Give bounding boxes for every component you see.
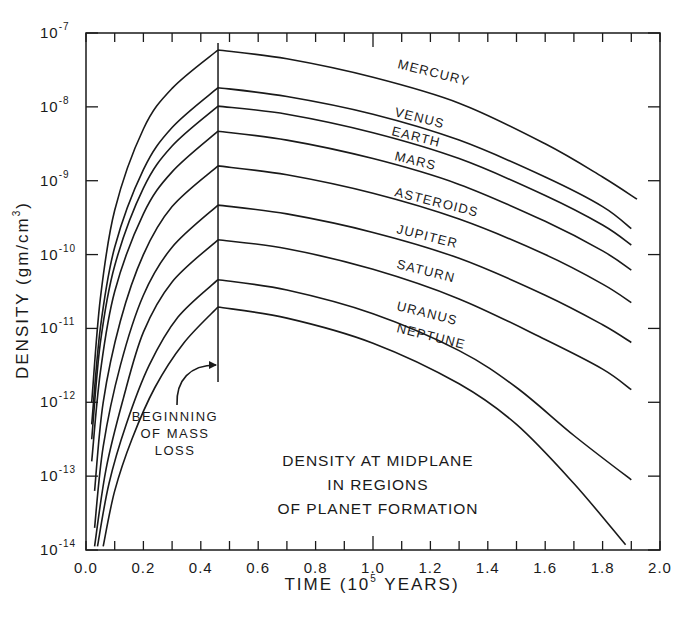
x-tick-label: 0.0: [74, 559, 98, 576]
series-label-mercury: MERCURY: [396, 56, 471, 88]
x-tick-label: 0.4: [189, 559, 213, 576]
x-tick-label: 0.6: [246, 559, 270, 576]
y-tick-label: 10-13: [40, 464, 76, 484]
y-axis-title: DENSITY (gm/cm3): [11, 201, 32, 379]
x-tick-label: 2.0: [648, 559, 672, 576]
y-tick-label: 10-8: [40, 95, 70, 115]
x-tick-label: 1.6: [533, 559, 557, 576]
series-label-saturn: SATURN: [395, 256, 457, 285]
plot-frame: [86, 33, 660, 550]
x-tick-label: 0.8: [304, 559, 328, 576]
series-curves: [92, 50, 637, 546]
x-axis-title: TIME (105 YEARS): [284, 573, 459, 594]
curve-venus: [92, 88, 632, 425]
x-tick-label: 1.4: [476, 559, 500, 576]
y-tick-label: 10-9: [40, 169, 70, 189]
y-tick-label: 10-14: [40, 538, 76, 558]
annotation-text-line: LOSS: [155, 443, 196, 458]
annotation-text-line: OF MASS: [140, 426, 209, 441]
density-chart: 0.00.20.40.60.81.01.21.41.61.82.0 10-710…: [0, 0, 683, 620]
caption-line: IN REGIONS: [327, 476, 428, 493]
series-label-asteroids: ASTEROIDS: [393, 184, 480, 219]
y-tick-label: 10-10: [40, 243, 76, 263]
chart-caption: DENSITY AT MIDPLANEIN REGIONSOF PLANET F…: [278, 452, 479, 517]
arrowhead-icon: [209, 361, 217, 369]
plot-border: [86, 33, 660, 550]
x-tick-label: 1.8: [591, 559, 615, 576]
x-tick-label: 0.2: [131, 559, 155, 576]
arrow-icon: [177, 365, 216, 405]
caption-line: OF PLANET FORMATION: [278, 500, 479, 517]
series-label-neptune: NEPTUNE: [395, 320, 467, 352]
y-tick-label: 10-7: [40, 21, 70, 41]
chart-canvas: 0.00.20.40.60.81.01.21.41.61.82.0 10-710…: [0, 0, 683, 620]
y-tick-label: 10-12: [40, 390, 76, 410]
y-tick-label: 10-11: [40, 316, 75, 336]
series-label-jupiter: JUPITER: [395, 221, 459, 251]
caption-line: DENSITY AT MIDPLANE: [282, 452, 473, 469]
axis-titles: TIME (105 YEARS)DENSITY (gm/cm3): [11, 201, 460, 594]
x-tick-label: 1.2: [418, 559, 442, 576]
annotation-text-line: BEGINNING: [132, 409, 218, 424]
series-labels: MERCURYVENUSEARTHMARSASTEROIDSJUPITERSAT…: [390, 56, 480, 352]
